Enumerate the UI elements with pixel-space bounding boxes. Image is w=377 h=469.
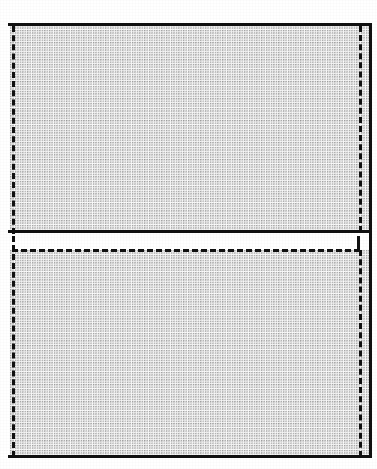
left-dashed-edge-upper [12,26,15,234]
upper-hatched-region [10,25,370,232]
right-solid-boundary-upper [369,23,372,233]
left-dashed-edge-lower [12,236,15,457]
dashed-riser-connector [357,236,360,252]
right-solid-boundary-lower [369,233,372,458]
middle-dashed-rule [12,249,360,252]
right-dashed-edge-lower [359,250,362,457]
bottom-solid-boundary [8,455,372,458]
right-dashed-edge-upper [359,26,362,232]
technical-diagram [0,0,377,469]
middle-solid-boundary [8,230,372,233]
top-solid-boundary [8,23,372,26]
middle-gap-band [10,233,370,250]
lower-hatched-region [10,250,370,457]
